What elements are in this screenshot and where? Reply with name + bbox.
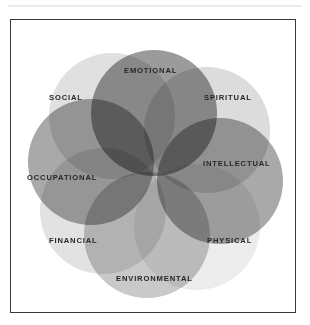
venn-label-intellectual: INTELLECTUAL <box>203 160 271 168</box>
top-divider-rule <box>8 5 302 7</box>
venn-label-emotional: EMOTIONAL <box>124 67 177 75</box>
venn-label-financial: FINANCIAL <box>49 237 98 245</box>
venn-label-spiritual: SPIRITUAL <box>204 94 252 102</box>
venn-label-physical: PHYSICAL <box>207 237 252 245</box>
venn-diagram: EMOTIONALSPIRITUALINTELLECTUALPHYSICALEN… <box>11 20 295 312</box>
venn-label-occupational: OCCUPATIONAL <box>27 174 97 182</box>
venn-label-environmental: ENVIRONMENTAL <box>116 275 193 283</box>
venn-label-social: SOCIAL <box>49 94 83 102</box>
figure-frame: EMOTIONALSPIRITUALINTELLECTUALPHYSICALEN… <box>10 19 296 313</box>
